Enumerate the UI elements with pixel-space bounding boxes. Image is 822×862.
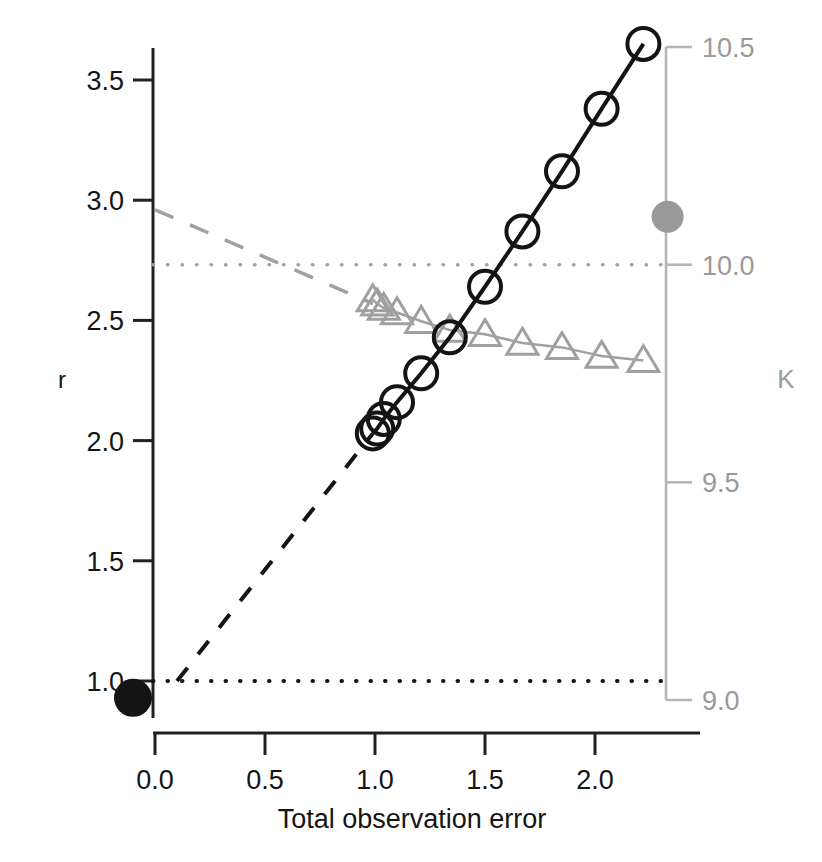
r-extrapolation-line [177,433,373,681]
chart-canvas: 1.01.52.02.53.03.5 0.00.51.01.52.0 9.09.… [0,0,822,862]
figure-root: 1.01.52.02.53.03.5 0.00.51.01.52.0 9.09.… [0,0,822,862]
extrapolation-lines-group [155,210,373,681]
left-axis-ticks [133,80,153,681]
left-axis-tick-label: 3.0 [86,186,124,216]
bottom-axis-tick-label: 0.5 [246,765,284,795]
bottom-axis-tick-label: 2.0 [576,765,614,795]
left-axis: 1.01.52.02.53.03.5 [86,48,153,718]
right-axis-ticks [666,47,692,700]
bottom-axis-tick-label: 1.0 [356,765,394,795]
left-axis-tick-label: 3.5 [86,66,124,96]
left-axis-tick-label: 1.5 [86,547,124,577]
bottom-axis: 0.00.51.01.52.0 [136,733,700,795]
left-axis-tick-label: 2.5 [86,306,124,336]
bottom-axis-tick-label: 1.5 [466,765,504,795]
right-axis: 9.09.510.010.5 [666,33,755,716]
y2-axis-title: K [777,364,795,394]
series-r-estimates [357,28,660,449]
bottom-axis-tick-labels: 0.00.51.01.52.0 [136,765,614,795]
right-axis-tick-label: 9.0 [702,686,740,716]
r-true-value-point [114,679,152,717]
left-axis-tick-labels: 1.01.52.02.53.03.5 [86,66,124,697]
series-k-estimates [357,285,659,372]
y-axis-title: r [58,366,66,393]
bottom-axis-ticks [155,733,595,755]
right-axis-tick-label: 9.5 [702,468,740,498]
bottom-axis-tick-label: 0.0 [136,765,174,795]
right-axis-tick-label: 10.5 [702,33,755,63]
right-axis-tick-labels: 9.09.510.010.5 [702,33,755,716]
k-extrapolation-line [155,210,373,304]
x-axis-title: Total observation error [278,804,547,834]
true-value-points-group [114,201,684,717]
right-axis-tick-label: 10.0 [702,251,755,281]
k-true-value-point [652,201,684,233]
left-axis-tick-label: 2.0 [86,427,124,457]
